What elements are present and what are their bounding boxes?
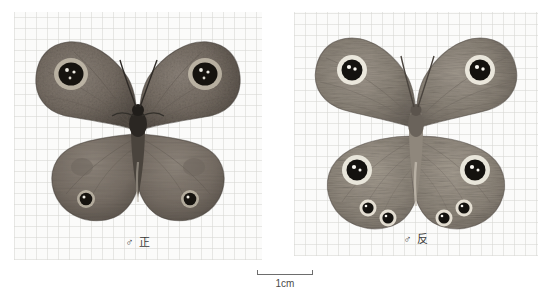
eyespot-pupil	[203, 77, 206, 80]
eyespot-pupil	[470, 165, 474, 169]
specimen-plate: ♂ 正	[0, 0, 552, 303]
eyespot-core	[80, 193, 93, 206]
dorsal-left-forewing	[36, 42, 137, 130]
eyespot-pupil	[441, 215, 444, 218]
dorsal-right-forewing	[140, 42, 241, 130]
eyespot-pupil	[475, 65, 479, 69]
eyespot-pupil	[477, 169, 480, 172]
scale-bar-tick-left	[257, 270, 258, 275]
eyespot-pupil	[347, 65, 351, 69]
specimen-label-ventral: ♂ 反	[294, 230, 538, 246]
butterfly-ventral-image	[294, 12, 538, 256]
dorsal-left-hindwing	[52, 134, 140, 221]
scale-bar: 1cm	[257, 270, 315, 300]
eyespot-core	[347, 160, 368, 181]
scale-bar-label: 1cm	[257, 278, 313, 289]
eyespot-core	[59, 63, 84, 86]
eyespot-core	[458, 202, 469, 213]
eyespot-pupil	[365, 205, 368, 208]
eyespot-core	[342, 60, 363, 81]
eyespot-pupil	[187, 196, 190, 199]
eyespot-core	[362, 202, 373, 213]
ventral-right-forewing	[417, 38, 517, 128]
dorsal-right-hindwing	[136, 134, 224, 221]
eyespot-core	[470, 60, 491, 81]
eyespot-pupil	[481, 67, 484, 70]
ventral-left-forewing	[315, 38, 415, 128]
eyespot-pupil	[461, 205, 464, 208]
ventral-left-hindwing	[327, 136, 420, 229]
eyespot-core	[193, 63, 218, 86]
eyespot-pupil	[65, 68, 69, 72]
eyespot-core	[184, 193, 197, 206]
butterfly-dorsal-image	[14, 12, 262, 260]
specimen-label-dorsal: ♂ 正	[14, 233, 262, 249]
eyespot-core	[382, 212, 393, 223]
eyespot-pupil	[385, 215, 388, 218]
eyespot-pupil	[352, 165, 356, 169]
eyespot-pupil	[83, 196, 86, 199]
ventral-right-hindwing	[412, 136, 505, 229]
eyespot-core	[438, 212, 449, 223]
scale-bar-line	[257, 274, 313, 275]
specimen-panel-dorsal	[14, 12, 262, 260]
scale-bar-tick-right	[312, 270, 313, 275]
eyespot-pupil	[69, 77, 72, 80]
eyespot-pupil	[359, 169, 362, 172]
eyespot-pupil	[206, 70, 209, 73]
eyespot-pupil	[353, 67, 356, 70]
eyespot-core	[465, 160, 486, 181]
eyespot-pupil	[199, 68, 203, 72]
specimen-panel-ventral	[294, 12, 538, 256]
eyespot-pupil	[72, 70, 75, 73]
